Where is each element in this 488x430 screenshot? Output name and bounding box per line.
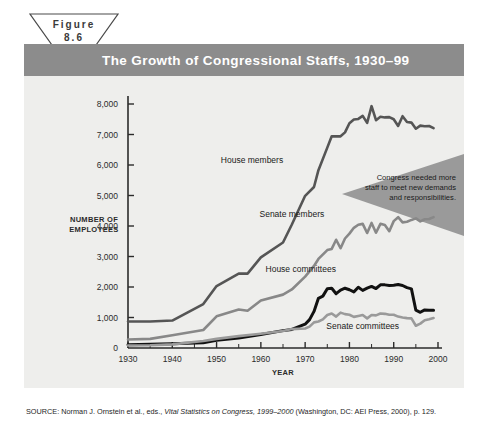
source-suffix: (Washington, DC: AEI Press, 2000), p. 12… xyxy=(294,407,437,416)
y-tick-label: 6,000 xyxy=(97,160,119,170)
source-italic-title: Vital Statistics on Congress, 1999–2000 xyxy=(164,407,293,416)
figure-title: The Growth of Congressional Staffs, 1930… xyxy=(102,53,410,68)
y-tick-label: 3,000 xyxy=(97,252,119,262)
y-tick-label: 1,000 xyxy=(97,313,119,323)
x-tick-label: 1970 xyxy=(296,354,315,364)
source-note: SOURCE: Norman J. Ornstein et al., eds.,… xyxy=(26,406,476,417)
x-tick-label: 1980 xyxy=(340,354,359,364)
y-axis-title-cont: EMPLOYEES xyxy=(69,225,118,234)
figure-container: Figure 8.6 The Growth of Congressional S… xyxy=(0,0,488,430)
chart-panel: 01,0002,0003,0004,0005,0006,0007,0008,00… xyxy=(24,76,464,388)
callout-line1: Congress needed more xyxy=(377,173,456,182)
y-axis-title: NUMBER OF xyxy=(70,215,118,224)
x-tick-label: 1940 xyxy=(163,354,182,364)
callout-line2: staff to meet new demands xyxy=(365,183,456,192)
y-tick-label: 0 xyxy=(113,343,118,353)
x-tick-label: 1930 xyxy=(119,354,138,364)
y-tick-label: 2,000 xyxy=(97,282,119,292)
series-label: Senate members xyxy=(259,209,324,219)
figure-title-bar: The Growth of Congressional Staffs, 1930… xyxy=(24,44,464,76)
chart-svg: 01,0002,0003,0004,0005,0006,0007,0008,00… xyxy=(24,76,464,388)
x-tick-label: 1960 xyxy=(251,354,270,364)
series-label: House committees xyxy=(266,264,336,274)
x-tick-label: 1990 xyxy=(384,354,403,364)
x-axis-title: YEAR xyxy=(272,368,294,377)
series-label: House members xyxy=(221,155,283,165)
callout-line3: and responsibilities. xyxy=(389,193,456,202)
series-label: Senate committees xyxy=(326,321,399,331)
y-tick-label: 5,000 xyxy=(97,191,119,201)
x-tick-label: 2000 xyxy=(429,354,448,364)
x-tick-label: 1950 xyxy=(207,354,226,364)
y-tick-label: 8,000 xyxy=(97,99,119,109)
y-tick-label: 7,000 xyxy=(97,130,119,140)
source-prefix: SOURCE: Norman J. Ornstein et al., eds., xyxy=(26,407,164,416)
